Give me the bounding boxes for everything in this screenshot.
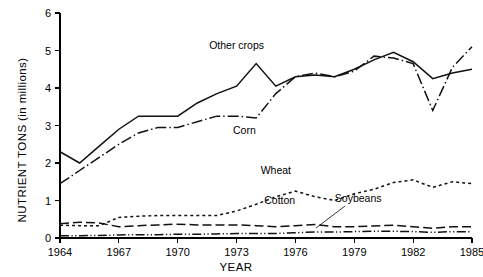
x-tick-label: 1982 xyxy=(401,246,425,258)
y-axis-title: NUTRIENT TONS (in millions) xyxy=(16,58,28,223)
x-tick-label: 1976 xyxy=(283,246,307,258)
y-tick-label: 2 xyxy=(45,157,51,169)
annotation-corn: Corn xyxy=(233,124,256,136)
annotation-soybeans: Soybeans xyxy=(335,192,382,204)
x-tick-labels: 19641967197019731976197919821985 xyxy=(48,246,483,258)
y-tick-label: 0 xyxy=(45,232,51,244)
x-tick-label: 1979 xyxy=(342,246,366,258)
x-tick-label: 1985 xyxy=(460,246,483,258)
y-tick-label: 4 xyxy=(45,82,51,94)
y-tick-label: 1 xyxy=(45,195,51,207)
y-tick-labels: 0123456 xyxy=(45,7,51,244)
series-line-other-crops xyxy=(60,52,472,163)
x-tick-label: 1967 xyxy=(107,246,131,258)
series-line-cotton xyxy=(60,222,472,228)
chart-figure: NUTRIENT TONS (in millions) YEAR 0123456… xyxy=(0,0,483,277)
series-group xyxy=(60,47,472,236)
series-annotations: Other cropsCornWheatCottonSoybeans xyxy=(209,39,381,206)
y-tick-label: 6 xyxy=(45,7,51,19)
annotation-other-crops: Other crops xyxy=(209,39,264,51)
soybeans-leader-line xyxy=(316,206,345,228)
x-axis-title: YEAR xyxy=(220,261,253,273)
annotation-wheat: Wheat xyxy=(261,164,291,176)
line-chart-svg: NUTRIENT TONS (in millions) YEAR 0123456… xyxy=(0,0,483,277)
x-tick-label: 1964 xyxy=(48,246,72,258)
x-tick-label: 1970 xyxy=(165,246,189,258)
y-tick-label: 5 xyxy=(45,45,51,57)
series-line-soybeans xyxy=(60,231,472,236)
x-tick-label: 1973 xyxy=(224,246,248,258)
y-tick-label: 3 xyxy=(45,120,51,132)
annotation-cotton: Cotton xyxy=(264,194,295,206)
